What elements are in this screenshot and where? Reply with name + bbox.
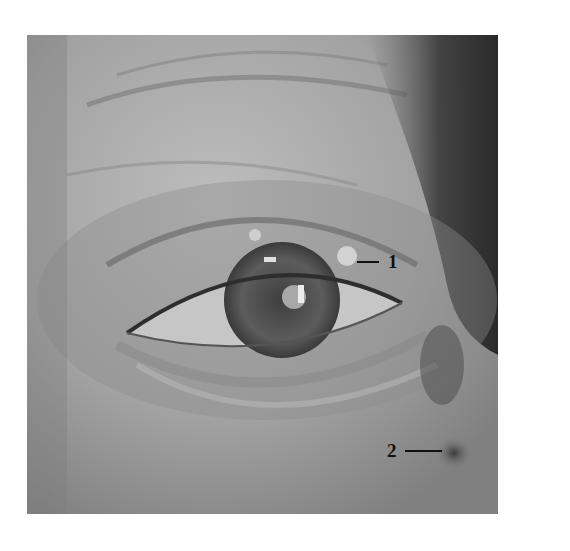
annotation-2-leader [405,450,442,452]
annotation-1-label: 1 [388,252,398,271]
annotation-1-leader [357,261,379,263]
photo-illustration [27,35,498,514]
eye-photograph [27,35,498,514]
annotation-2-label: 2 [387,441,397,460]
